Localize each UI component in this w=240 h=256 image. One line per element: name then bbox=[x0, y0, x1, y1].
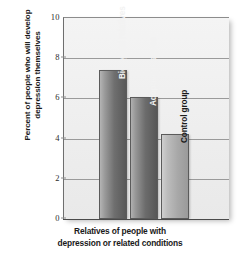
gridline bbox=[64, 58, 229, 59]
y-axis-tick-0: 0 bbox=[40, 213, 60, 223]
y-axis-tick-mark bbox=[61, 137, 66, 138]
y-axis-tick-2: 2 bbox=[40, 173, 60, 183]
bar-adoptive-relatives bbox=[130, 97, 158, 219]
x-axis-title-line-1: Relatives of people with bbox=[0, 226, 240, 238]
x-axis-title: Relatives of people with depression or r… bbox=[0, 226, 240, 249]
y-axis-tick-mark bbox=[61, 218, 66, 219]
bar-control-group bbox=[161, 134, 189, 219]
y-axis-tick-4: 4 bbox=[40, 133, 60, 143]
bar-label-control-group: Control group bbox=[180, 89, 189, 142]
y-axis-tick-mark bbox=[61, 97, 66, 98]
bar-label-biological-relatives: Biological relatives bbox=[118, 7, 127, 80]
y-axis-title-line-1: Percent of people who will develop bbox=[22, 9, 33, 140]
bar-label-adoptive-relatives: Adoptive relatives bbox=[149, 38, 158, 107]
y-axis-tick-labels: 0246810 bbox=[40, 0, 60, 256]
y-axis-tick-mark bbox=[61, 57, 66, 58]
y-axis-tick-mark bbox=[61, 177, 66, 178]
y-axis-tick-8: 8 bbox=[40, 52, 60, 62]
plot-area: Biological relativesAdoptive relativesCo… bbox=[63, 17, 229, 219]
bar-biological-relatives bbox=[99, 70, 127, 219]
y-axis-tick-6: 6 bbox=[40, 92, 60, 102]
y-axis-tick-10: 10 bbox=[40, 12, 60, 22]
bar-chart-figure: Percent of people who will develop depre… bbox=[0, 0, 240, 256]
x-axis-title-line-2: depression or related conditions bbox=[0, 238, 240, 250]
